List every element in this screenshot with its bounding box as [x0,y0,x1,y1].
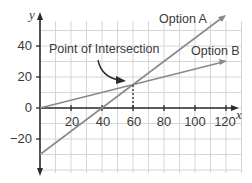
option-a-label: Option A [159,12,208,26]
y-tick-label-neg20: −20 [10,131,32,146]
intersection-label: Point of Intersection [49,42,160,56]
x-axis-label: x [235,107,242,122]
y-tick-label-20: 20 [18,69,32,84]
x-tick-label-120: 120 [214,114,236,129]
x-tick-label-60: 60 [127,114,141,129]
y-axis-label: y [27,7,35,22]
option-b-label: Option B [191,44,240,58]
x-tick-label-40: 40 [96,114,110,129]
x-tick-label-100: 100 [184,114,206,129]
y-tick-label-40: 40 [18,38,32,53]
chart: y x Option A Option B Point of Intersect… [0,0,252,183]
axes [37,12,239,176]
y-axis-up-arrow-icon [37,12,43,20]
option-b-line [40,62,223,108]
option-a-arrow-icon [218,15,226,22]
x-tick-label-80: 80 [157,114,171,129]
y-tick-label-0: 0 [25,100,32,115]
y-axis-down-arrow-icon [37,168,43,176]
x-tick-label-20: 20 [65,114,79,129]
